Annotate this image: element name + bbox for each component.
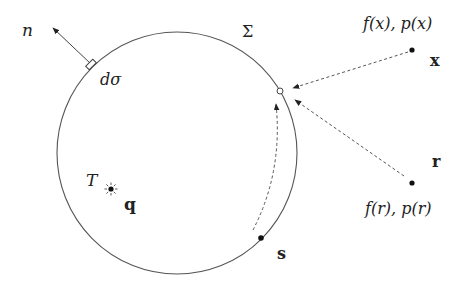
region-label: T <box>86 172 97 189</box>
surface-label: Σ <box>242 24 253 40</box>
normal-arrow <box>53 28 91 64</box>
dashed-arrow-from-s <box>253 104 277 230</box>
point-x-annotation: f(x), p(x) <box>363 16 432 32</box>
point-r-label: r <box>432 154 440 170</box>
point-s-dot <box>258 235 264 241</box>
point-s-label: s <box>277 246 286 262</box>
dashed-arrow-from-r <box>295 100 404 176</box>
source-q-icon <box>105 183 118 196</box>
point-x-label: x <box>430 53 440 69</box>
normal-label: n <box>22 22 33 39</box>
dashed-arrow-from-x <box>293 52 408 88</box>
target-point <box>277 88 283 94</box>
source-label: q <box>124 196 136 213</box>
element-label: dσ <box>100 72 121 88</box>
point-r-dot <box>409 180 414 185</box>
diagram-canvas <box>0 0 470 283</box>
point-r-annotation: f(r), p(r) <box>365 201 432 217</box>
point-x-dot <box>409 47 414 52</box>
